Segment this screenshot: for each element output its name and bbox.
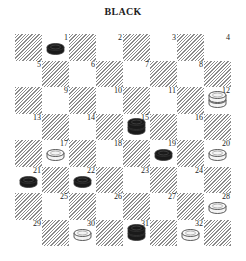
square-21: 21: [15, 167, 42, 194]
hatched-square: [69, 193, 96, 220]
hatched-square: [69, 140, 96, 167]
square-number: 11: [168, 86, 176, 95]
square-number: 8: [199, 60, 203, 69]
square-10: 10: [96, 87, 123, 114]
white-man-piece-icon: [208, 149, 227, 162]
hatched-square: [177, 34, 204, 61]
hatched-square: [204, 220, 231, 247]
hatched-square: [15, 87, 42, 114]
hatched-square: [15, 34, 42, 61]
square-number: 3: [172, 33, 176, 42]
square-8: 8: [177, 61, 204, 88]
square-number: 30: [87, 219, 95, 228]
black-man-piece-icon: [154, 149, 173, 162]
hatched-square: [150, 167, 177, 194]
white-man-piece-icon: [46, 149, 65, 162]
hatched-square: [123, 140, 150, 167]
square-number: 16: [195, 113, 203, 122]
hatched-square: [42, 220, 69, 247]
square-26: 26: [96, 193, 123, 220]
hatched-square: [177, 87, 204, 114]
square-number: 13: [33, 113, 41, 122]
square-29: 29: [15, 220, 42, 247]
square-16: 16: [177, 114, 204, 141]
hatched-square: [177, 140, 204, 167]
hatched-square: [204, 167, 231, 194]
square-12: 12: [204, 87, 231, 114]
square-11: 11: [150, 87, 177, 114]
square-4: 4: [204, 34, 231, 61]
hatched-square: [204, 61, 231, 88]
black-king-piece-icon: [127, 224, 146, 242]
hatched-square: [123, 193, 150, 220]
square-3: 3: [150, 34, 177, 61]
hatched-square: [15, 140, 42, 167]
square-number: 4: [226, 33, 230, 42]
square-number: 17: [60, 139, 68, 148]
square-15: 15: [123, 114, 150, 141]
hatched-square: [42, 61, 69, 88]
square-9: 9: [42, 87, 69, 114]
hatched-square: [96, 220, 123, 247]
checkers-board: 1 23456789101112 131415 1617 1819 20 2: [15, 34, 231, 246]
square-number: 20: [222, 139, 230, 148]
white-man-piece-icon: [73, 229, 92, 242]
black-man-piece-icon: [73, 176, 92, 189]
square-number: 7: [145, 60, 149, 69]
hatched-square: [177, 193, 204, 220]
square-number: 19: [168, 139, 176, 148]
square-number: 26: [114, 192, 122, 201]
square-number: 29: [33, 219, 41, 228]
square-number: 1: [64, 33, 68, 42]
square-18: 18: [96, 140, 123, 167]
black-man-piece-icon: [19, 176, 38, 189]
hatched-square: [96, 114, 123, 141]
square-number: 18: [114, 139, 122, 148]
square-number: 22: [87, 166, 95, 175]
square-14: 14: [69, 114, 96, 141]
hatched-square: [204, 114, 231, 141]
hatched-square: [69, 87, 96, 114]
board-title: BLACK: [0, 6, 246, 17]
square-number: 14: [87, 113, 95, 122]
square-number: 32: [195, 219, 203, 228]
square-number: 6: [91, 60, 95, 69]
square-number: 23: [141, 166, 149, 175]
square-number: 10: [114, 86, 122, 95]
hatched-square: [15, 193, 42, 220]
hatched-square: [42, 114, 69, 141]
square-23: 23: [123, 167, 150, 194]
square-20: 20: [204, 140, 231, 167]
hatched-square: [150, 220, 177, 247]
hatched-square: [123, 34, 150, 61]
square-32: 32: [177, 220, 204, 247]
black-man-piece-icon: [46, 43, 65, 56]
square-number: 2: [118, 33, 122, 42]
square-number: 27: [168, 192, 176, 201]
black-king-piece-icon: [127, 118, 146, 136]
square-2: 2: [96, 34, 123, 61]
square-number: 24: [195, 166, 203, 175]
hatched-square: [123, 87, 150, 114]
square-6: 6: [69, 61, 96, 88]
square-number: 21: [33, 166, 41, 175]
square-19: 19: [150, 140, 177, 167]
square-28: 28: [204, 193, 231, 220]
square-number: 5: [37, 60, 41, 69]
square-24: 24: [177, 167, 204, 194]
square-13: 13: [15, 114, 42, 141]
hatched-square: [96, 61, 123, 88]
square-30: 30: [69, 220, 96, 247]
square-5: 5: [15, 61, 42, 88]
square-number: 28: [222, 192, 230, 201]
square-number: 9: [64, 86, 68, 95]
white-king-piece-icon: [208, 91, 227, 109]
square-7: 7: [123, 61, 150, 88]
hatched-square: [42, 167, 69, 194]
square-number: 25: [60, 192, 68, 201]
square-31: 31: [123, 220, 150, 247]
square-27: 27: [150, 193, 177, 220]
hatched-square: [150, 114, 177, 141]
hatched-square: [150, 61, 177, 88]
square-25: 25: [42, 193, 69, 220]
